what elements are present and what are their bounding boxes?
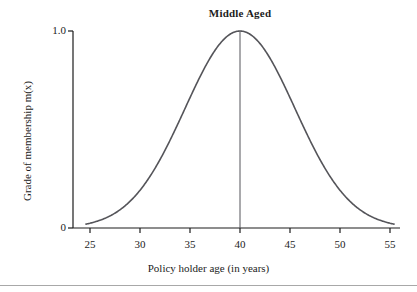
ytick-label-0: 0 [28, 221, 66, 233]
xtick-label-30: 30 [125, 238, 155, 250]
ytick-label-1: 1.0 [28, 24, 66, 36]
xtick-label-35: 35 [175, 238, 205, 250]
yaxis-title: Grade of membership m(x) [21, 56, 33, 226]
xaxis-title: Policy holder age (in years) [0, 262, 417, 274]
xtick-label-55: 55 [375, 238, 405, 250]
xtick-label-50: 50 [325, 238, 355, 250]
bottom-divider-rule [0, 285, 417, 286]
xtick-label-40: 40 [225, 238, 255, 250]
tick-marks-group [68, 31, 390, 233]
figure-container: Middle Aged 1.0 0 25303540455055 Grade o… [0, 0, 417, 292]
axes-group [73, 31, 400, 228]
xtick-label-45: 45 [275, 238, 305, 250]
xtick-label-25: 25 [75, 238, 105, 250]
